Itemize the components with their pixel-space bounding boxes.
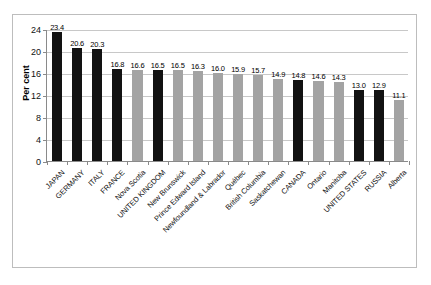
bar-value-label: 14.6 [312, 72, 326, 81]
bar [394, 100, 404, 161]
bar [153, 70, 163, 161]
bar-value-label: 14.8 [291, 71, 305, 80]
bar [52, 32, 62, 161]
x-tick-mark [409, 161, 410, 165]
y-tick-mark [43, 118, 47, 119]
x-tick-mark [188, 161, 189, 165]
bar-value-label: 16.5 [171, 61, 185, 70]
x-tick-mark [349, 161, 350, 165]
bar-value-label: 16.6 [131, 61, 145, 70]
x-tick-mark [268, 161, 269, 165]
bar [293, 80, 303, 161]
y-tick-label: 20 [31, 47, 41, 57]
bar [334, 82, 344, 161]
chart-figure: Per cent 04812162024 23.420.620.316.816.… [0, 0, 431, 285]
x-tick-mark [248, 161, 249, 165]
y-tick-label: 0 [36, 157, 41, 167]
bar-value-label: 11.1 [392, 91, 405, 100]
bar-value-label: 15.7 [251, 66, 265, 75]
y-tick-mark [43, 140, 47, 141]
x-tick-mark [67, 161, 68, 165]
bar [374, 90, 384, 161]
bar [132, 70, 142, 161]
x-tick-mark [87, 161, 88, 165]
bar [173, 70, 183, 161]
bar [193, 71, 203, 161]
bar-value-label: 12.9 [372, 81, 386, 90]
y-tick-label: 4 [36, 135, 41, 145]
bar-value-label: 20.6 [70, 39, 84, 48]
x-tick-mark [228, 161, 229, 165]
bar [112, 69, 122, 161]
bar-value-label: 23.4 [50, 23, 64, 32]
bar-value-label: 16.0 [211, 64, 225, 73]
x-tick-mark [47, 161, 48, 165]
bar-value-label: 20.3 [90, 40, 104, 49]
y-tick-mark [43, 96, 47, 97]
plot-area: 04812162024 23.420.620.316.816.616.516.5… [46, 30, 408, 162]
x-tick-mark [168, 161, 169, 165]
y-tick-mark [43, 30, 47, 31]
bar-value-label: 16.3 [191, 62, 205, 71]
x-tick-mark [288, 161, 289, 165]
y-axis-title: Per cent [21, 43, 31, 123]
y-tick-label: 12 [31, 91, 41, 101]
x-tick-mark [329, 161, 330, 165]
bar-value-label: 16.5 [151, 61, 165, 70]
bar [92, 49, 102, 161]
bar [273, 79, 283, 161]
y-tick-label: 24 [31, 25, 41, 35]
bar-value-label: 15.9 [231, 65, 245, 74]
bar-value-label: 13.0 [352, 81, 366, 90]
bar [313, 81, 323, 161]
y-tick-label: 8 [36, 113, 41, 123]
bar-value-label: 14.9 [271, 70, 285, 79]
bar [253, 75, 263, 161]
y-tick-mark [43, 52, 47, 53]
y-tick-label: 16 [31, 69, 41, 79]
y-tick-mark [43, 74, 47, 75]
bar-value-label: 14.3 [332, 73, 346, 82]
x-tick-mark [389, 161, 390, 165]
x-tick-mark [208, 161, 209, 165]
x-tick-mark [107, 161, 108, 165]
bar [233, 74, 243, 161]
gridline [47, 30, 408, 31]
bar [213, 73, 223, 161]
bar [72, 48, 82, 161]
x-tick-mark [308, 161, 309, 165]
x-tick-mark [369, 161, 370, 165]
x-tick-mark [148, 161, 149, 165]
bar-value-label: 16.8 [110, 60, 124, 69]
bar [354, 90, 364, 162]
x-tick-mark [127, 161, 128, 165]
